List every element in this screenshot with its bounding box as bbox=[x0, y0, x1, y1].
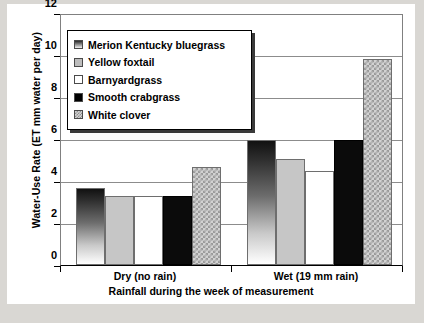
bar-dry-white-clover[interactable] bbox=[192, 167, 221, 265]
y-tick-label-6: 6 bbox=[17, 123, 57, 135]
y-tick-label-8: 8 bbox=[17, 81, 57, 93]
legend-swatch-black-icon bbox=[74, 93, 83, 102]
y-tick-label-0: 0 bbox=[17, 249, 57, 261]
bar-dry-barnyardgrass[interactable] bbox=[134, 196, 163, 265]
legend-label-yellow-foxtail: Yellow foxtail bbox=[88, 56, 155, 68]
bar-wet-barnyardgrass[interactable] bbox=[305, 171, 334, 265]
y-tick-label-4: 4 bbox=[17, 165, 57, 177]
legend-item-merion-kentucky-bluegrass[interactable]: Merion Kentucky bluegrass bbox=[74, 36, 245, 54]
bar-wet-yellow-foxtail[interactable] bbox=[276, 159, 305, 265]
bar-wet-white-clover[interactable] bbox=[363, 59, 392, 265]
legend-swatch-gray-icon bbox=[74, 58, 83, 67]
legend: Merion Kentucky bluegrass Yellow foxtail… bbox=[67, 30, 252, 130]
y-tick-label-10: 10 bbox=[17, 39, 57, 51]
legend-item-smooth-crabgrass[interactable]: Smooth crabgrass bbox=[74, 89, 245, 107]
bar-dry-yellow-foxtail[interactable] bbox=[105, 196, 134, 265]
x-axis-title: Rainfall during the week of measurement bbox=[7, 285, 415, 297]
legend-label-smooth-crabgrass: Smooth crabgrass bbox=[88, 91, 180, 103]
bar-dry-smooth-crabgrass[interactable] bbox=[163, 196, 192, 265]
legend-label-barnyardgrass: Barnyardgrass bbox=[88, 74, 162, 86]
x-category-label-wet: Wet (19 mm rain) bbox=[256, 270, 376, 282]
x-category-label-dry: Dry (no rain) bbox=[85, 270, 205, 282]
bar-group-wet bbox=[232, 15, 404, 265]
legend-swatch-white-icon bbox=[74, 75, 83, 84]
legend-swatch-check-icon bbox=[74, 110, 83, 119]
x-tick-right bbox=[402, 266, 403, 272]
bar-dry-merion-kentucky-bluegrass[interactable] bbox=[76, 188, 105, 265]
y-tick-label-12: 12 bbox=[17, 0, 57, 9]
figure-card: Water-Use Rate (ET mm water per day) Rai… bbox=[7, 4, 415, 304]
legend-label-merion-kentucky-bluegrass: Merion Kentucky bluegrass bbox=[88, 39, 225, 51]
x-tick-middle bbox=[231, 266, 232, 272]
x-tick-left bbox=[60, 266, 61, 272]
legend-label-white-clover: White clover bbox=[88, 109, 150, 121]
legend-item-barnyardgrass[interactable]: Barnyardgrass bbox=[74, 71, 245, 89]
bar-wet-merion-kentucky-bluegrass[interactable] bbox=[247, 140, 276, 265]
legend-swatch-gradient-icon bbox=[74, 40, 83, 49]
legend-item-white-clover[interactable]: White clover bbox=[74, 106, 245, 124]
legend-item-yellow-foxtail[interactable]: Yellow foxtail bbox=[74, 54, 245, 72]
y-tick-label-2: 2 bbox=[17, 207, 57, 219]
bar-wet-smooth-crabgrass[interactable] bbox=[334, 140, 363, 265]
scanned-page-background: Water-Use Rate (ET mm water per day) Rai… bbox=[0, 0, 424, 323]
